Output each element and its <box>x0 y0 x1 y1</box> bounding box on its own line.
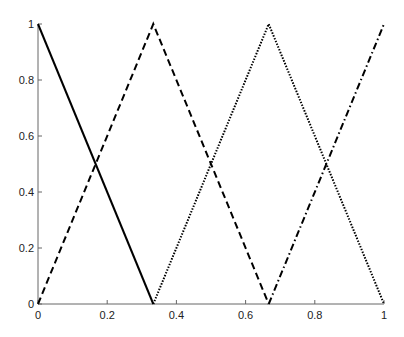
x-tick-label: 0 <box>35 309 41 321</box>
y-tick-label: 0.2 <box>19 242 34 254</box>
plot-series <box>38 24 384 304</box>
x-tick-label: 0.2 <box>100 309 115 321</box>
y-tick-label: 0.4 <box>19 186 34 198</box>
x-tick-label: 0.6 <box>238 309 253 321</box>
x-tick-label: 0.8 <box>307 309 322 321</box>
series-dashed-line <box>38 24 269 304</box>
x-tick-label: 0.4 <box>169 309 184 321</box>
y-tick-label: 1 <box>28 18 34 30</box>
y-tick-label: 0.8 <box>19 74 34 86</box>
x-axis-ticks: 00.20.40.60.81 <box>35 300 387 321</box>
series-dotted-line <box>153 24 384 304</box>
y-axis-ticks: 00.20.40.60.81 <box>19 18 42 310</box>
x-tick-label: 1 <box>381 309 387 321</box>
line-chart: 00.20.40.60.81 00.20.40.60.81 <box>0 0 404 337</box>
y-tick-label: 0 <box>28 298 34 310</box>
y-tick-label: 0.6 <box>19 130 34 142</box>
